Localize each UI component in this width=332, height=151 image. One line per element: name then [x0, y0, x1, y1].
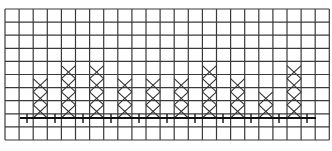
x-mark: [146, 105, 160, 118]
x-mark: [118, 105, 132, 118]
x-mark: [231, 92, 245, 105]
x-mark: [146, 92, 160, 105]
x-mark: [231, 79, 245, 92]
x-marks: [33, 66, 301, 118]
x-mark: [287, 92, 301, 105]
x-mark: [202, 79, 216, 92]
line-plot-chart: [0, 0, 332, 151]
x-mark: [118, 79, 132, 92]
x-mark: [61, 66, 75, 79]
x-mark: [287, 79, 301, 92]
x-mark: [174, 79, 188, 92]
x-mark: [287, 105, 301, 118]
x-mark: [90, 79, 104, 92]
x-mark: [174, 92, 188, 105]
x-mark: [33, 79, 47, 92]
x-mark: [90, 92, 104, 105]
x-mark: [202, 66, 216, 79]
x-mark: [287, 66, 301, 79]
x-mark: [33, 92, 47, 105]
x-mark: [118, 92, 132, 105]
x-mark: [61, 79, 75, 92]
x-mark: [259, 92, 273, 105]
x-mark: [33, 105, 47, 118]
x-mark: [146, 79, 160, 92]
x-mark: [90, 105, 104, 118]
x-mark: [61, 92, 75, 105]
x-mark: [90, 66, 104, 79]
x-mark: [231, 105, 245, 118]
x-mark: [259, 105, 273, 118]
x-mark: [174, 105, 188, 118]
x-mark: [202, 92, 216, 105]
x-mark: [202, 105, 216, 118]
x-mark: [61, 105, 75, 118]
